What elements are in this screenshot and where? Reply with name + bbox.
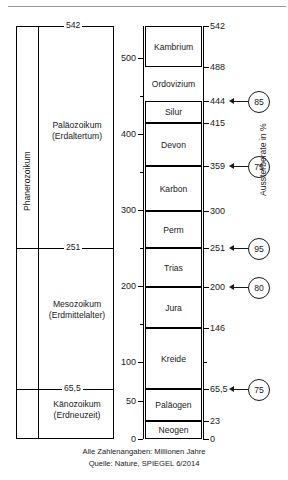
period-box-perm: Perm xyxy=(145,211,202,248)
right-tick-label-415: 415 xyxy=(210,118,225,128)
left-tick-label-500: 500 xyxy=(110,53,136,63)
extinction-rate-badge-200: 80 xyxy=(248,277,270,299)
right-tick-label-444: 444 xyxy=(210,96,225,106)
caption-line-2: Quelle: Nature, SPIEGEL 6/2014 xyxy=(0,459,288,469)
left-tick-50 xyxy=(138,401,143,402)
extinction-rate-value-444: 85 xyxy=(254,97,264,107)
left-tick-100 xyxy=(138,362,143,363)
right-axis-title: Aussterberate in % xyxy=(258,123,268,196)
extinction-arrow-line-65-5 xyxy=(232,389,248,390)
right-tick-label-0: 0 xyxy=(210,434,215,444)
era-label-kaenozoikum: Känozoikum (Erdneuzeit) xyxy=(40,399,114,421)
extinction-rate-value-200: 80 xyxy=(254,283,264,293)
era-column-frame xyxy=(16,26,114,439)
left-axis-line xyxy=(143,26,144,439)
geologic-time-scale-figure: Phanerozoikum 542 Paläozoikum (Erdaltert… xyxy=(0,0,288,480)
period-label-neogen: Neogen xyxy=(158,425,188,435)
era-label-mesozoikum-sub: (Erdmittelalter) xyxy=(40,310,114,321)
right-tick-251 xyxy=(203,248,209,249)
left-tick-minor-450 xyxy=(140,96,143,97)
period-label-ordovizium: Ordovizium xyxy=(152,79,195,89)
arrow-left-icon-65-5 xyxy=(229,386,234,392)
extinction-rate-badge-444: 85 xyxy=(248,91,270,113)
eon-column-divider xyxy=(38,26,39,439)
left-tick-label-0: 0 xyxy=(110,434,136,444)
right-tick-label-65-5: 65,5 xyxy=(210,384,228,394)
right-tick-label-542: 542 xyxy=(210,21,225,31)
period-box-kambrium: Kambrium xyxy=(145,26,202,67)
right-tick-200 xyxy=(203,287,209,288)
left-tick-label-400: 400 xyxy=(110,129,136,139)
right-tick-label-23: 23 xyxy=(210,416,220,426)
left-tick-400 xyxy=(138,134,143,135)
period-box-ordovizium: Ordovizium xyxy=(145,67,202,101)
period-label-jura: Jura xyxy=(165,303,182,313)
era-boundary-251: 251 xyxy=(64,243,82,252)
period-label-silur: Silur xyxy=(165,107,182,117)
right-tick-146 xyxy=(203,328,209,329)
left-tick-label-200: 200 xyxy=(110,281,136,291)
era-label-palaeozoikum-name: Paläozoikum xyxy=(40,120,114,131)
eon-label-phanerozoikum: Phanerozoikum xyxy=(22,189,32,211)
extinction-rate-value-65-5: 75 xyxy=(254,385,264,395)
extinction-arrow-line-359 xyxy=(232,166,248,167)
era-boundary-65-5: 65,5 xyxy=(62,384,83,393)
left-tick-label-50: 50 xyxy=(110,396,136,406)
era-label-mesozoikum-name: Mesozoikum xyxy=(40,299,114,310)
right-tick-label-200: 200 xyxy=(210,282,225,292)
period-label-kreide: Kreide xyxy=(161,354,186,364)
period-label-trias: Trias xyxy=(164,263,183,273)
period-box-jura: Jura xyxy=(145,287,202,328)
left-tick-0 xyxy=(138,439,143,440)
arrow-left-icon-251 xyxy=(229,245,234,251)
right-tick-minor-100 xyxy=(203,362,207,363)
extinction-rate-badge-65-5: 75 xyxy=(248,379,270,401)
period-box-silur: Silur xyxy=(145,101,202,123)
top-rule xyxy=(8,6,286,7)
extinction-arrow-line-251 xyxy=(232,248,248,249)
left-tick-300 xyxy=(138,210,143,211)
left-tick-minor-150 xyxy=(140,324,143,325)
era-label-mesozoikum: Mesozoikum (Erdmittelalter) xyxy=(40,299,114,321)
right-tick-label-488: 488 xyxy=(210,62,225,72)
right-axis-line xyxy=(203,26,204,439)
arrow-left-icon-444 xyxy=(229,98,234,104)
era-boundary-542: 542 xyxy=(64,21,82,30)
right-tick-23 xyxy=(203,421,209,422)
arrow-left-icon-359 xyxy=(229,163,234,169)
right-tick-444 xyxy=(203,101,209,102)
period-box-devon: Devon xyxy=(145,123,202,166)
period-label-devon: Devon xyxy=(161,140,186,150)
era-label-kaenozoikum-sub: (Erdneuzeit) xyxy=(40,410,114,421)
left-tick-200 xyxy=(138,286,143,287)
left-tick-minor-350 xyxy=(140,172,143,173)
left-tick-500 xyxy=(138,58,143,59)
right-tick-label-146: 146 xyxy=(210,323,225,333)
era-label-palaeozoikum: Paläozoikum (Erdaltertum) xyxy=(40,120,114,142)
right-tick-300 xyxy=(203,211,209,212)
extinction-rate-value-251: 95 xyxy=(254,244,264,254)
period-label-palaeogen: Paläogen xyxy=(155,400,191,410)
arrow-left-icon-200 xyxy=(229,284,234,290)
right-tick-359 xyxy=(203,166,209,167)
left-tick-minor-250 xyxy=(140,248,143,249)
right-tick-415 xyxy=(203,123,209,124)
left-tick-label-100: 100 xyxy=(110,357,136,367)
extinction-rate-badge-251: 95 xyxy=(248,238,270,260)
right-tick-488 xyxy=(203,67,209,68)
period-box-karbon: Karbon xyxy=(145,166,202,211)
era-label-palaeozoikum-sub: (Erdaltertum) xyxy=(40,131,114,142)
right-tick-65-5 xyxy=(203,389,209,390)
period-box-kreide: Kreide xyxy=(145,328,202,389)
extinction-arrow-line-444 xyxy=(232,101,248,102)
period-label-karbon: Karbon xyxy=(160,184,188,194)
caption-line-1: Alle Zahlenangaben: Millionen Jahre xyxy=(0,447,288,457)
period-box-neogen: Neogen xyxy=(145,421,202,439)
right-tick-0 xyxy=(203,439,209,440)
right-tick-542 xyxy=(203,26,209,27)
period-label-kambrium: Kambrium xyxy=(154,42,193,52)
era-label-kaenozoikum-name: Känozoikum xyxy=(40,399,114,410)
period-box-trias: Trias xyxy=(145,248,202,287)
right-tick-label-359: 359 xyxy=(210,161,225,171)
right-tick-label-251: 251 xyxy=(210,243,225,253)
